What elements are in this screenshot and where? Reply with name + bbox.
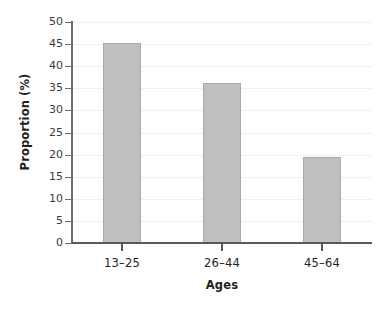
y-axis-tick <box>65 199 72 200</box>
bar <box>303 157 341 243</box>
y-axis-tick <box>65 22 72 23</box>
y-axis-tick-label: 50 <box>23 16 63 27</box>
bar <box>203 83 241 243</box>
y-axis-tick <box>65 110 72 111</box>
y-axis-tick-label: 40 <box>23 60 63 71</box>
y-axis-tick <box>65 177 72 178</box>
x-axis-tick-label: 26–44 <box>177 256 267 270</box>
y-axis-tick-label: 20 <box>23 149 63 160</box>
y-axis-tick <box>65 133 72 134</box>
gridline <box>72 22 372 23</box>
x-axis-tick <box>121 244 123 251</box>
y-axis-tick-label: 15 <box>23 171 63 182</box>
y-axis-title: Proportion (%) <box>14 0 36 243</box>
x-axis-tick-label: 45–64 <box>277 256 367 270</box>
y-axis-tick <box>65 221 72 222</box>
x-axis-tick <box>221 244 223 251</box>
y-axis-tick <box>65 243 72 244</box>
x-axis-tick <box>321 244 323 251</box>
y-axis-tick <box>65 66 72 67</box>
y-axis-tick-label: 5 <box>23 215 63 226</box>
y-axis-tick-label: 25 <box>23 127 63 138</box>
y-axis-tick <box>65 44 72 45</box>
x-axis-tick-label: 13–25 <box>77 256 167 270</box>
bar-chart: Proportion (%) 05101520253035404550 13–2… <box>0 0 385 311</box>
y-axis-tick <box>65 88 72 89</box>
y-axis-tick-label: 35 <box>23 82 63 93</box>
bar <box>103 43 141 243</box>
y-axis-tick <box>65 155 72 156</box>
x-axis-title: Ages <box>72 278 372 292</box>
y-axis-tick-label: 0 <box>23 237 63 248</box>
y-axis-tick-label: 10 <box>23 193 63 204</box>
y-axis-tick-label: 45 <box>23 38 63 49</box>
plot-area <box>72 22 372 243</box>
y-axis-tick-label: 30 <box>23 104 63 115</box>
